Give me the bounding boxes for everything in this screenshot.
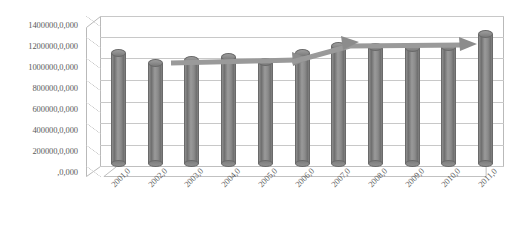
bar-top-cap [478,30,493,38]
plot-area [86,16,504,176]
gridline-connector [86,37,101,48]
bar [221,53,236,167]
y-axis-tick-label: 1200000,0,000 [28,42,78,51]
bar-chart: 1400000,0,000 1200000,0,000 1000000,0,00… [0,0,526,234]
y-axis-tick-label: 1000000,0,000 [28,63,78,72]
gridline-connector [86,16,101,27]
bar [111,49,126,167]
bar-body [368,47,383,164]
bar-body [441,47,456,164]
bar [368,43,383,167]
y-axis-tick-label: 800000,0,000 [32,84,78,93]
gridline-connector [86,80,101,91]
y-axis-tick-label: 600000,0,000 [32,105,78,114]
bar [148,59,163,167]
bar-top-cap [405,44,420,52]
bar [331,42,346,167]
bar-body [295,53,310,164]
bar-top-cap [368,43,383,51]
x-axis-tick-labels: 2001,02002,02003,02004,02005,02006,02007… [86,176,504,234]
gridline-connector [86,102,101,113]
bar [441,43,456,167]
y-axis-tick-label: 400000,0,000 [32,126,78,135]
gridline-connector [86,145,101,156]
bar [405,44,420,167]
bar-top-cap [111,49,126,57]
y-axis-tick-label: 200000,0,000 [32,147,78,156]
bar-body [184,60,199,164]
gridline-connector [86,123,101,134]
gridline-connector [86,58,101,69]
bar [184,56,199,167]
bar-body [405,48,420,164]
bar-top-cap [148,59,163,67]
bar [478,30,493,167]
bar [258,58,273,167]
bar-body [478,34,493,164]
y-axis-tick-label: 1400000,0,000 [28,21,78,30]
y-axis-tick-label: ,0,000 [57,168,78,177]
bar-body [111,53,126,164]
y-axis-tick-labels: 1400000,0,000 1200000,0,000 1000000,0,00… [0,0,78,200]
bar-body [148,63,163,164]
bar-series [100,16,504,167]
bar-body [258,62,273,164]
bar-body [221,57,236,164]
bar [295,49,310,167]
bar-body [331,46,346,164]
bar-top-cap [295,49,310,57]
